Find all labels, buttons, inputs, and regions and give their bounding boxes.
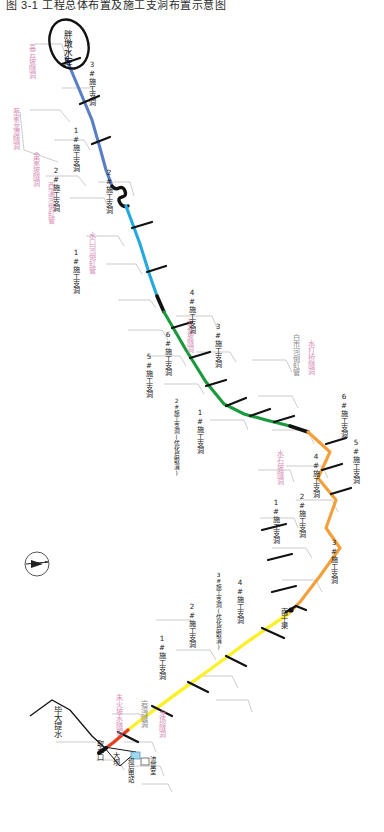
- branch-label-blue-2: 2#施工支洞: [52, 166, 60, 212]
- node-knot-cyan-green: [157, 296, 164, 312]
- reservoir-label: 胖墩水库: [62, 30, 72, 66]
- branch-label-yellow-3: 3#施工支洞(优化后取消): [214, 572, 222, 650]
- north-arrow-icon: [22, 549, 52, 579]
- structure-label-zhuhuopo: 朱火坡水隧洞: [115, 694, 123, 736]
- endpoint-label-south-canal: 南干渠: [280, 608, 288, 629]
- branch-label-green-6: 6#施工支洞: [164, 330, 172, 376]
- branch-label-yellow-2: 2#施工支洞: [188, 602, 196, 648]
- structure-label-longchang: 龙场隧洞: [158, 710, 166, 738]
- branch-label-cyan-2: 2#施工支洞: [105, 168, 113, 214]
- structure-label-jinjiapo: 金家坡隧洞: [32, 152, 40, 187]
- branch-label-orange-6: 6#施工支洞: [340, 392, 348, 438]
- branch-label-yellow-1: 1#施工支洞: [158, 634, 166, 680]
- endpoint-label-powerstation: 坝后电站: [126, 758, 134, 782]
- endpoint-label-intake: 取水口: [96, 740, 104, 761]
- branch-label-green-4: 4#施工支洞: [188, 288, 196, 334]
- pipeline-yellow: [128, 614, 288, 730]
- branch-label-orange-4: 4#施工支洞: [312, 452, 320, 498]
- branch-label-orange-2: 2#施工支洞: [298, 492, 306, 538]
- branch-label-green-2: 2#施工支洞(优化后取消): [172, 398, 180, 476]
- branch-label-yellow-4: 4#施工支洞: [236, 578, 244, 624]
- structure-label-shuikouhe: 水口河倒虹管: [88, 232, 96, 274]
- structure-label-shuishipo: 水石坡隧洞: [276, 450, 284, 485]
- structure-label-baishihe: 白市河倒虹管: [292, 334, 300, 376]
- branch-label-orange-1: 1#施工支洞: [272, 498, 280, 544]
- endpoint-label-flowmeter: 流量室: [148, 756, 156, 774]
- structure-label-shuidaqiao: 水打桥隧洞: [307, 340, 315, 375]
- pipeline-cyan: [126, 206, 157, 296]
- structure-label-caijia: 蔡家龙潭隧洞: [12, 108, 20, 150]
- route-schematic-canvas: 图 3-1 工程总体布置及施工支洞布置示意图: [0, 0, 384, 832]
- structure-label-gaoyunpo: 高云坡隧洞: [28, 44, 36, 79]
- source-feeder-line: [30, 700, 104, 747]
- node-knot-green-orange: [290, 426, 308, 432]
- branch-label-green-1: 1#施工支洞: [196, 408, 204, 454]
- branch-label-green-5: 5#施工支洞: [145, 352, 153, 398]
- branch-label-blue-3: 3#施工支洞: [88, 60, 96, 106]
- endpoint-label-dam: 大坝: [112, 752, 120, 766]
- branch-label-orange-5: 5#施工支洞: [352, 438, 360, 484]
- node-knot-upper: [112, 186, 128, 207]
- branch-label-orange-3: 3#施工支洞: [330, 538, 338, 584]
- endpoint-label-source: 毕大提水: [52, 706, 60, 738]
- south-canal-node: [288, 607, 293, 612]
- structure-label-yanwan: 岩湾隧洞: [140, 700, 148, 728]
- branch-label-green-3: 3#施工支洞: [214, 322, 222, 368]
- branch-tunnel-ticks: [62, 58, 351, 742]
- pipeline-green: [164, 312, 290, 426]
- branch-label-blue-1: 1#施工支洞: [72, 126, 80, 172]
- branch-label-cyan-1: 1#施工支洞: [72, 248, 80, 294]
